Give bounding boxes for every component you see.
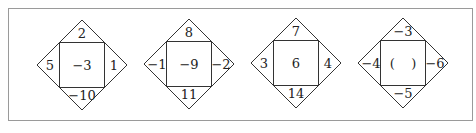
diamond-1-right: 1 xyxy=(110,58,118,73)
diamond-1: 2 5 1 −10 −3 xyxy=(37,20,127,110)
diamond-3-bottom: 14 xyxy=(288,86,305,101)
diamond-2-right: −2 xyxy=(211,57,230,72)
diamond-1-left: 5 xyxy=(46,58,54,73)
diamond-4-top: −3 xyxy=(393,24,412,39)
diamond-4: −3 −4 −6 −5 ( ) xyxy=(358,18,448,108)
diamond-2-top: 8 xyxy=(185,25,193,40)
diamond-3-right: 4 xyxy=(324,56,332,71)
diamond-1-center: −3 xyxy=(72,58,91,73)
diamond-1-bottom: −10 xyxy=(68,88,95,103)
diamond-diagram: 2 5 1 −10 −3 8 −1 −2 11 −9 7 3 4 14 6 −3… xyxy=(0,0,476,133)
diamond-4-right: −6 xyxy=(425,56,444,71)
diamond-3-left: 3 xyxy=(260,56,268,71)
diamond-4-bottom: −5 xyxy=(393,86,412,101)
diamond-3-center: 6 xyxy=(292,56,300,71)
diamond-3-top: 7 xyxy=(292,24,300,39)
diamond-2: 8 −1 −2 11 −9 xyxy=(144,19,234,109)
diamond-3: 7 3 4 14 6 xyxy=(251,18,341,108)
diamond-2-left: −1 xyxy=(147,57,166,72)
diamond-2-bottom: 11 xyxy=(181,87,198,102)
diamond-4-left: −4 xyxy=(361,56,380,71)
diamond-1-top: 2 xyxy=(78,26,86,41)
diamond-2-center: −9 xyxy=(179,57,198,72)
diamond-4-center-blank: ( ) xyxy=(390,56,417,71)
